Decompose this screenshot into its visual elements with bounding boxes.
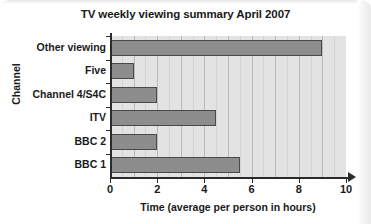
x-axis-line bbox=[110, 177, 350, 179]
gridline bbox=[204, 36, 205, 177]
x-axis-label: 6 bbox=[237, 183, 267, 195]
x-axis-arrow-icon bbox=[348, 172, 356, 182]
gridline bbox=[228, 36, 229, 177]
gridline bbox=[299, 36, 300, 177]
gridline bbox=[240, 36, 241, 177]
gridline bbox=[181, 36, 182, 177]
x-axis-label: 4 bbox=[189, 183, 219, 195]
x-axis-label: 2 bbox=[142, 183, 172, 195]
x-axis-title: Time (average per person in hours) bbox=[110, 201, 346, 213]
y-axis-label: ITV bbox=[0, 111, 106, 123]
plot-area bbox=[110, 36, 346, 177]
y-axis-label: Other viewing bbox=[0, 41, 106, 53]
gridline bbox=[216, 36, 217, 177]
y-axis-line bbox=[110, 33, 112, 179]
gridline bbox=[145, 36, 146, 177]
bar bbox=[110, 157, 240, 173]
gridline bbox=[287, 36, 288, 177]
gridline bbox=[263, 36, 264, 177]
x-axis-label: 10 bbox=[331, 183, 361, 195]
gridline bbox=[134, 36, 135, 177]
y-axis-label: BBC 2 bbox=[0, 135, 106, 147]
gridline bbox=[157, 36, 158, 177]
gridline bbox=[334, 36, 335, 177]
gridline bbox=[322, 36, 323, 177]
gridline bbox=[275, 36, 276, 177]
y-axis-label: Channel 4/S4C bbox=[0, 88, 106, 100]
gridline bbox=[169, 36, 170, 177]
gridline bbox=[252, 36, 253, 177]
y-axis-tick-labels: BBC 1BBC 2ITVChannel 4/S4CFiveOther view… bbox=[0, 0, 106, 224]
x-axis-label: 0 bbox=[95, 183, 125, 195]
bar bbox=[110, 63, 134, 79]
x-axis-label: 8 bbox=[284, 183, 314, 195]
y-axis-label: Five bbox=[0, 64, 106, 76]
y-axis-label: BBC 1 bbox=[0, 158, 106, 170]
chart-page: TV weekly viewing summary April 2007 Cha… bbox=[0, 0, 371, 224]
bar bbox=[110, 110, 216, 126]
bar bbox=[110, 40, 322, 56]
gridline bbox=[311, 36, 312, 177]
gridline bbox=[122, 36, 123, 177]
bar bbox=[110, 87, 157, 103]
bar bbox=[110, 134, 157, 150]
gridline bbox=[193, 36, 194, 177]
